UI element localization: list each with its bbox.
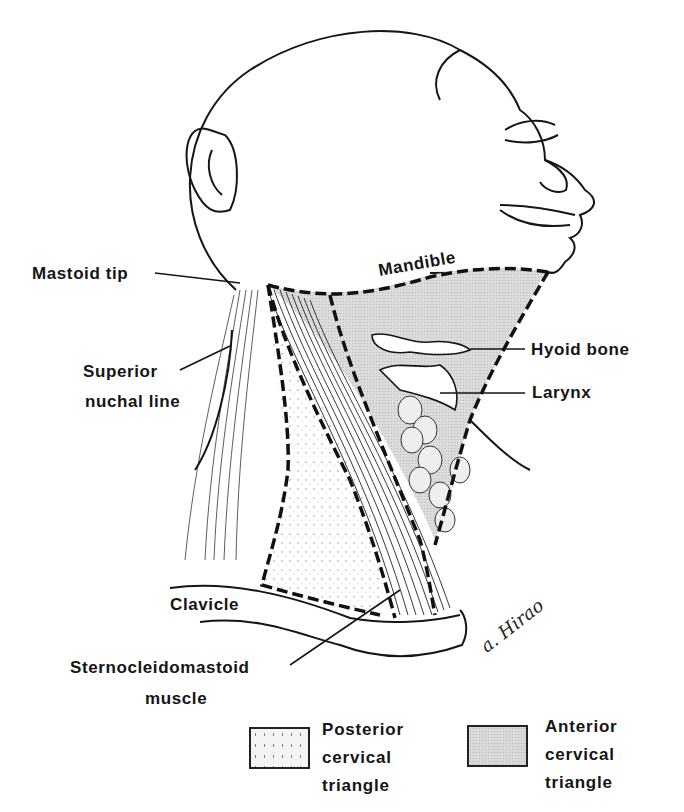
legend-label-posterior: Posterior cervical triangle <box>322 716 404 800</box>
label-larynx: Larynx <box>532 384 591 401</box>
legend-anterior-line-3: triangle <box>545 769 618 797</box>
label-sternocleidomastoid-2: muscle <box>145 690 207 707</box>
legend-anterior-line-1: Anterior <box>545 713 618 741</box>
label-superior-nuchal-line-2: nuchal line <box>85 393 180 410</box>
label-superior-nuchal-line-1: Superior <box>83 363 158 380</box>
legend-posterior-line-3: triangle <box>322 772 404 800</box>
legend-anterior-line-2: cervical <box>545 741 618 769</box>
label-mastoid-tip: Mastoid tip <box>32 265 128 282</box>
label-hyoid-bone: Hyoid bone <box>531 341 630 358</box>
legend-posterior-line-1: Posterior <box>322 716 404 744</box>
legend-swatch-posterior <box>249 727 310 769</box>
head-outline <box>187 31 594 290</box>
legend-posterior-line-2: cervical <box>322 744 404 772</box>
label-clavicle: Clavicle <box>170 596 239 613</box>
label-sternocleidomastoid-1: Sternocleidomastoid <box>70 659 250 676</box>
legend-swatch-anterior <box>467 725 528 767</box>
legend-label-anterior: Anterior cervical triangle <box>545 713 618 797</box>
